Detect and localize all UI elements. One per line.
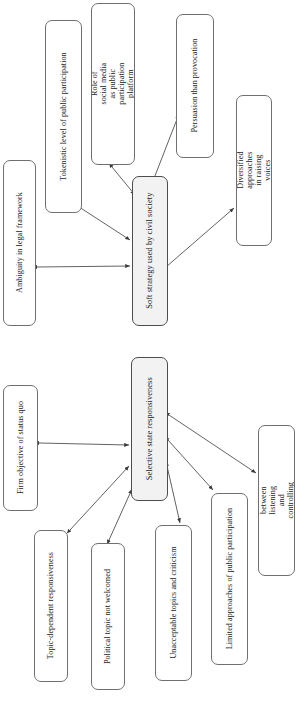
node-diversified-approaches-label-line: Diversified approaches in raising	[236, 152, 263, 189]
node-firm-objective-status-quo-label: Firm objective of status quo	[16, 401, 25, 494]
node-role-social-media-label: Role of social media as publicparticipat…	[91, 63, 135, 105]
diagram-edge	[37, 266, 130, 267]
node-role-social-media-label-line: Role of social media as public	[91, 63, 118, 105]
node-unacceptable-topics-criticism[interactable]: Unacceptable topics and criticism	[155, 525, 192, 681]
node-contradiction-listening-controlling-label: Contradiction between listeningand contr…	[258, 478, 295, 524]
node-tokenistic-participation-label: Tokenistic level of public participation	[59, 52, 68, 181]
node-selective-state-responsiveness-label: Selective state responsiveness	[145, 378, 154, 481]
diagram-edge	[166, 208, 234, 267]
diagram-edge	[167, 466, 180, 523]
diagram-edge	[70, 466, 129, 530]
node-political-topic-not-welcomed-label: Political topic not welcomed	[103, 569, 112, 664]
diagram-edge	[169, 415, 256, 473]
node-topic-dependent-responsiveness[interactable]: Topic-dependent responsiveness	[34, 530, 68, 682]
node-persuasion-provocation-label: Persuasion than provocation	[190, 39, 199, 133]
node-limited-approaches-participation[interactable]: Limited approaches of public participati…	[211, 493, 248, 665]
node-role-social-media[interactable]: Role of social media as publicparticipat…	[91, 3, 135, 165]
node-ambiguity-legal-framework[interactable]: Ambiguity in legal framework	[3, 160, 36, 326]
diagram-edge	[39, 443, 129, 445]
node-diversified-approaches-label: Diversified approaches in raisingvoices	[236, 152, 272, 189]
diagram-canvas: Ambiguity in legal frameworkTokenistic l…	[0, 0, 297, 723]
node-diversified-approaches[interactable]: Diversified approaches in raisingvoices	[236, 95, 272, 246]
node-unacceptable-topics-criticism-label: Unacceptable topics and criticism	[169, 547, 178, 659]
node-tokenistic-participation[interactable]: Tokenistic level of public participation	[45, 20, 82, 213]
diagram-edge	[76, 205, 130, 240]
node-contradiction-listening-controlling[interactable]: Contradiction between listeningand contr…	[258, 425, 295, 576]
node-soft-strategy-label: Soft strategy used by civil society	[145, 193, 154, 309]
node-contradiction-listening-controlling-label-line: Contradiction between listening	[258, 478, 277, 524]
node-selective-state-responsiveness[interactable]: Selective state responsiveness	[131, 357, 168, 501]
node-limited-approaches-participation-label: Limited approaches of public participati…	[225, 508, 234, 649]
node-political-topic-not-welcomed[interactable]: Political topic not welcomed	[91, 543, 125, 690]
node-ambiguity-legal-framework-label: Ambiguity in legal framework	[15, 193, 24, 294]
node-diversified-approaches-label-line: voices	[263, 152, 272, 189]
node-soft-strategy[interactable]: Soft strategy used by civil society	[132, 176, 168, 326]
node-topic-dependent-responsiveness-label: Topic-dependent responsiveness	[46, 552, 55, 659]
node-contradiction-listening-controlling-label-line: and controlling public voices	[277, 478, 296, 524]
diagram-edge	[168, 440, 213, 490]
diagram-edge	[109, 489, 132, 540]
node-persuasion-provocation[interactable]: Persuasion than provocation	[176, 14, 214, 158]
node-role-social-media-label-line: participation platform	[118, 63, 135, 105]
node-firm-objective-status-quo[interactable]: Firm objective of status quo	[3, 385, 38, 511]
